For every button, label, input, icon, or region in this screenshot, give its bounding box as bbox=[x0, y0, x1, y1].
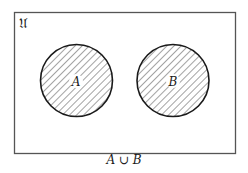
set-a-label: A bbox=[71, 75, 81, 89]
diagram-caption: A ∪ B bbox=[0, 153, 248, 167]
set-b: B bbox=[137, 45, 209, 117]
caption-left-operand: A bbox=[106, 153, 115, 167]
venn-diagram: 𝔘 A B bbox=[0, 0, 248, 173]
caption-union-operator: ∪ bbox=[119, 153, 129, 167]
universe-label: 𝔘 bbox=[19, 16, 28, 31]
set-b-label: B bbox=[168, 75, 178, 89]
caption-right-operand: B bbox=[133, 153, 142, 167]
set-a: A bbox=[41, 45, 113, 117]
